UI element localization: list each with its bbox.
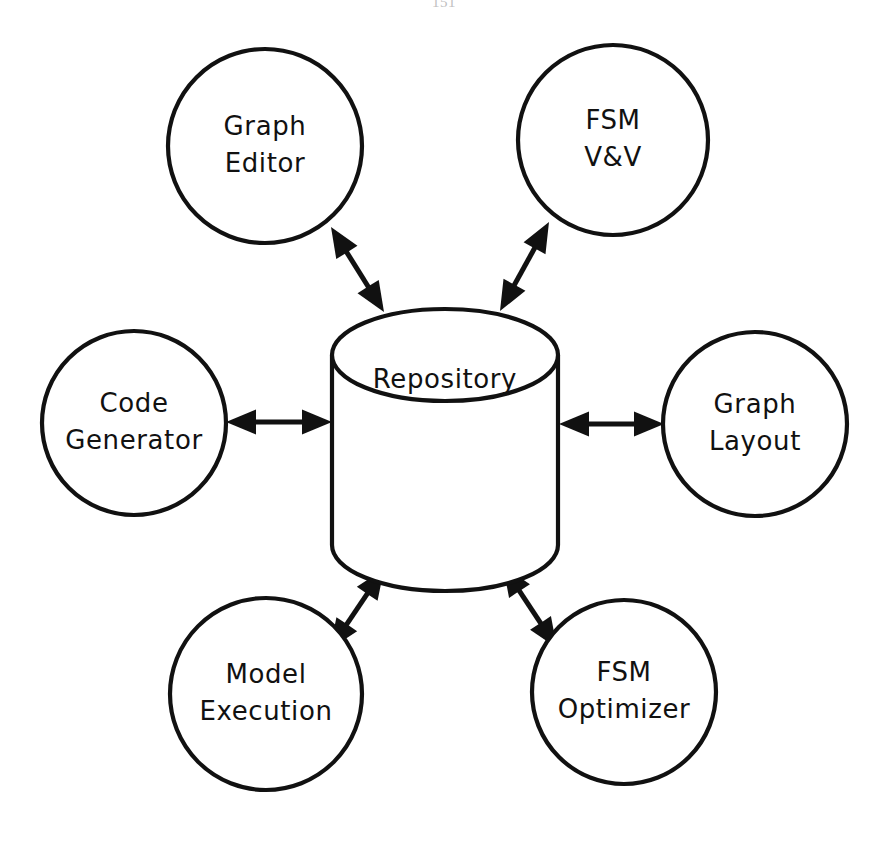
node-label-line: FSM bbox=[585, 105, 640, 135]
connector-edge-fsm-vv bbox=[500, 222, 549, 311]
node-repository[interactable]: Repository bbox=[332, 309, 558, 591]
arrow-head-forward bbox=[634, 412, 664, 437]
node-shape bbox=[170, 598, 362, 790]
arrow-head-forward bbox=[358, 280, 384, 312]
node-label-line: Graph bbox=[224, 111, 307, 141]
node-code-generator[interactable]: CodeGenerator bbox=[42, 331, 226, 515]
connector-edge-graph-layout bbox=[559, 412, 664, 437]
node-graph-layout[interactable]: GraphLayout bbox=[663, 332, 847, 516]
arrow-head-backward bbox=[559, 412, 589, 437]
connector-edge-code-generator bbox=[226, 410, 332, 435]
connector-edge-graph-editor bbox=[331, 227, 384, 312]
arrow-head-backward bbox=[226, 410, 256, 435]
node-shape bbox=[518, 45, 708, 235]
node-label-line: Layout bbox=[709, 426, 801, 456]
node-label-line: Graph bbox=[714, 389, 797, 419]
node-label: Repository bbox=[373, 364, 517, 394]
center-node-layer: Repository bbox=[332, 309, 558, 591]
node-fsm-optimizer[interactable]: FSMOptimizer bbox=[532, 600, 716, 784]
node-shape bbox=[663, 332, 847, 516]
node-fsm-vv[interactable]: FSMV&V bbox=[518, 45, 708, 235]
node-shape bbox=[532, 600, 716, 784]
node-label-line: Optimizer bbox=[558, 694, 691, 724]
node-label-line: V&V bbox=[584, 142, 642, 172]
node-label-line: Editor bbox=[225, 148, 306, 178]
node-label-line: Execution bbox=[200, 696, 333, 726]
node-label-line: Code bbox=[100, 388, 169, 418]
architecture-diagram: Repository GraphEditorFSMV&VCodeGenerato… bbox=[0, 0, 888, 866]
node-model-execution[interactable]: ModelExecution bbox=[170, 598, 362, 790]
node-graph-editor[interactable]: GraphEditor bbox=[168, 49, 362, 243]
node-label-line: Model bbox=[225, 659, 306, 689]
node-shape bbox=[42, 331, 226, 515]
node-label-line: FSM bbox=[596, 657, 651, 687]
arrow-head-forward bbox=[302, 410, 332, 435]
arrow-head-backward bbox=[331, 227, 357, 259]
node-shape bbox=[168, 49, 362, 243]
node-label-line: Generator bbox=[65, 425, 202, 455]
diagram-canvas: 151 Repository GraphEditorFSMV&VCodeGene… bbox=[0, 0, 888, 866]
